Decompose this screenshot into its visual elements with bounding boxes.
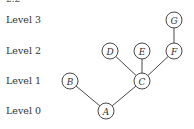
node-C: C bbox=[134, 73, 150, 89]
node-label: G bbox=[170, 16, 177, 26]
node-label: B bbox=[66, 77, 74, 87]
node-label: A bbox=[102, 107, 110, 117]
node-G: G bbox=[166, 12, 182, 28]
node-label: C bbox=[139, 77, 146, 87]
node-D: D bbox=[102, 43, 118, 59]
tree-graph: ABCDEFG bbox=[0, 0, 194, 129]
node-label: F bbox=[170, 47, 178, 57]
tree-diagram: 2.2 Level 3 Level 2 Level 1 Level 0 ABCD… bbox=[0, 0, 194, 129]
node-label: E bbox=[138, 47, 146, 57]
node-E: E bbox=[134, 43, 150, 59]
node-B: B bbox=[62, 73, 78, 89]
node-F: F bbox=[166, 43, 182, 59]
node-label: D bbox=[105, 47, 113, 57]
node-A: A bbox=[98, 103, 114, 119]
